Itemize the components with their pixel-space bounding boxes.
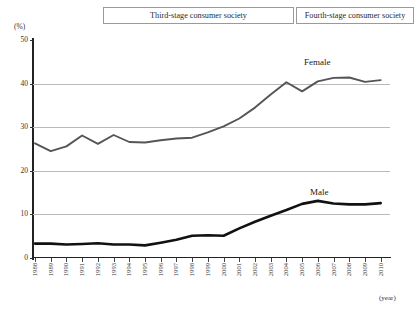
- y-tick-label-10: 10: [6, 209, 28, 218]
- x-tick-1993: [114, 258, 115, 262]
- x-tick-2005: [302, 258, 303, 262]
- y-tick-label-50: 50: [6, 35, 28, 44]
- x-tick-label-2005: 2005: [298, 263, 305, 276]
- x-tick-label-2006: 2006: [314, 263, 321, 276]
- y-tick-mark-0: [30, 258, 33, 259]
- x-tick-1995: [145, 258, 146, 262]
- y-tick-label-40: 40: [6, 79, 28, 88]
- x-tick-1992: [98, 258, 99, 262]
- x-tick-1991: [82, 258, 83, 262]
- y-tick-label-0: 0: [6, 253, 28, 262]
- x-tick-label-1999: 1999: [204, 263, 211, 276]
- x-tick-2010: [381, 258, 382, 262]
- stage-label-third: Third-stage consumer society: [103, 7, 294, 24]
- x-tick-label-1995: 1995: [141, 263, 148, 276]
- x-tick-label-1997: 1997: [172, 263, 179, 276]
- y-tick-label-30: 30: [6, 122, 28, 131]
- x-tick-label-2000: 2000: [220, 263, 227, 276]
- x-tick-1998: [192, 258, 193, 262]
- x-tick-label-1994: 1994: [125, 263, 132, 276]
- x-tick-label-2004: 2004: [282, 263, 289, 276]
- x-tick-label-1991: 1991: [78, 263, 85, 276]
- x-tick-label-2008: 2008: [345, 263, 352, 276]
- x-tick-2000: [224, 258, 225, 262]
- x-tick-label-2003: 2003: [267, 263, 274, 276]
- x-tick-2006: [318, 258, 319, 262]
- series-lines: [33, 40, 390, 258]
- x-tick-1988: [35, 258, 36, 262]
- x-tick-label-1996: 1996: [157, 263, 164, 276]
- x-tick-1997: [176, 258, 177, 262]
- x-tick-label-1998: 1998: [188, 263, 195, 276]
- series-line-male: [35, 201, 381, 246]
- x-tick-label-1992: 1992: [94, 263, 101, 276]
- x-tick-label-1993: 1993: [110, 263, 117, 276]
- x-tick-label-2009: 2009: [361, 263, 368, 276]
- y-axis-unit-label: (%): [14, 22, 25, 31]
- stage-label-fourth: Fourth-stage consumer society: [296, 7, 414, 24]
- x-tick-2004: [286, 258, 287, 262]
- series-label-female: Female: [304, 57, 331, 67]
- x-tick-2003: [271, 258, 272, 262]
- x-tick-label-2002: 2002: [251, 263, 258, 276]
- x-axis-unit-label: (year): [379, 294, 396, 302]
- x-tick-label-1990: 1990: [62, 263, 69, 276]
- chart-page: Third-stage consumer society Fourth-stag…: [0, 0, 417, 311]
- x-tick-label-1989: 1989: [47, 263, 54, 276]
- x-tick-1989: [51, 258, 52, 262]
- series-label-male: Male: [310, 187, 329, 197]
- x-tick-2009: [365, 258, 366, 262]
- x-tick-1996: [161, 258, 162, 262]
- plot-area: [33, 40, 390, 258]
- x-tick-1999: [208, 258, 209, 262]
- x-tick-label-2007: 2007: [330, 263, 337, 276]
- x-tick-2002: [255, 258, 256, 262]
- x-tick-label-1988: 1988: [31, 263, 38, 276]
- x-tick-2007: [334, 258, 335, 262]
- x-tick-label-2010: 2010: [377, 263, 384, 276]
- x-tick-2008: [349, 258, 350, 262]
- x-tick-1990: [66, 258, 67, 262]
- x-tick-label-2001: 2001: [235, 263, 242, 276]
- y-tick-label-20: 20: [6, 166, 28, 175]
- x-tick-2001: [239, 258, 240, 262]
- series-line-female: [35, 78, 381, 152]
- x-tick-1994: [129, 258, 130, 262]
